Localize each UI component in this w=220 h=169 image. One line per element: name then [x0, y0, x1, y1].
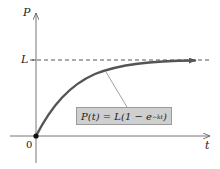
- asymptote-label: L: [21, 54, 28, 65]
- chart-canvas: [0, 0, 220, 169]
- formula-label-box: P(t) = L(1 − e−kt): [76, 107, 172, 125]
- origin-label: 0: [26, 140, 32, 150]
- formula-suffix: ): [163, 111, 167, 122]
- formula-leader-line: [106, 72, 127, 107]
- x-axis-label: t: [205, 140, 209, 151]
- origin-point: [33, 133, 38, 138]
- formula-exponent: −kt: [152, 113, 163, 120]
- y-axis-label: P: [23, 7, 30, 18]
- formula-prefix: P(t) = L(1 − e: [81, 111, 152, 122]
